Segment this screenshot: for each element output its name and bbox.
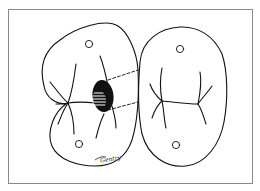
pit-left-bottom: [75, 140, 82, 147]
pit-right-top: [176, 45, 183, 52]
pit-left-top: [85, 40, 92, 47]
proximal-lesion: [90, 79, 115, 113]
projection-line-top: [108, 70, 138, 80]
pit-right-bottom: [172, 141, 179, 148]
teeth-illustration: [0, 0, 260, 191]
left-tooth-outline: [42, 23, 138, 166]
right-tooth-outline: [139, 27, 227, 166]
